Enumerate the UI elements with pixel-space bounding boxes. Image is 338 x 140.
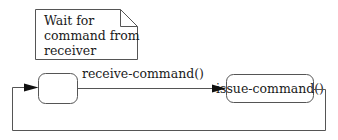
state-diagram: Wait for command from receiver issue-com… [0, 0, 338, 140]
transition-receive-command: receive-command() [78, 66, 227, 93]
note-line-3: receiver [44, 43, 96, 58]
transition-label: receive-command() [82, 66, 204, 81]
note-line-1: Wait for [44, 13, 94, 28]
note-line-2: command from [44, 28, 140, 43]
note: Wait for command from receiver [36, 10, 140, 60]
state-idle[interactable] [39, 74, 78, 104]
arrowhead-icon [24, 84, 39, 92]
state-issue-command[interactable]: issue-command() [216, 75, 324, 103]
state-issue-command-label: issue-command() [216, 81, 324, 96]
